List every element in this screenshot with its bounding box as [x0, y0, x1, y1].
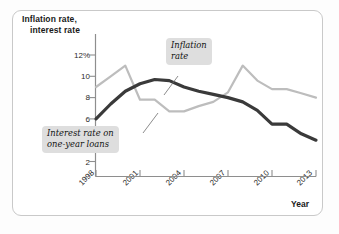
inflation-rate-callout-line2: rate	[171, 51, 188, 61]
interest-rate-callout-line2: one-year loans	[47, 139, 109, 149]
inflation-rate-callout: Inflation rate	[166, 38, 212, 65]
interest-rate-callout-line1: Interest rate on	[47, 128, 114, 138]
interest-rate-callout: Interest rate on one-year loans	[42, 126, 119, 153]
chart-figure: Inflation rate, interest rate 12% 10 8 6…	[0, 0, 339, 234]
x-axis-ticks	[96, 170, 316, 177]
inflation-rate-callout-line1: Inflation	[171, 40, 207, 50]
plot-area	[0, 0, 339, 234]
